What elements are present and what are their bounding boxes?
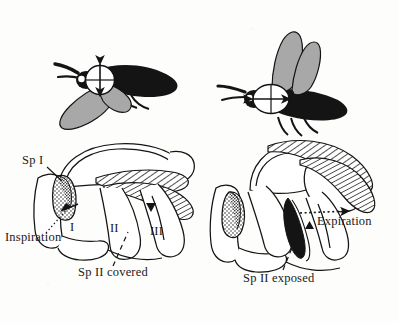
label-inspiration: Inspiration xyxy=(5,231,61,244)
figure-canvas: Sp I Inspiration Sp II covered I II III … xyxy=(0,0,399,323)
moth-wings-down-group xyxy=(55,64,178,129)
thorax-expiration-group xyxy=(210,141,375,273)
moth-wings-up-group xyxy=(218,32,347,136)
label-sp-one: Sp I xyxy=(22,154,43,167)
expiration-arrow xyxy=(300,211,349,213)
expiration-triangle-marker xyxy=(305,221,314,229)
label-segment-one: I xyxy=(70,221,74,234)
moth-respiration-figure xyxy=(0,0,399,323)
label-expiration: Expiration xyxy=(317,215,372,228)
label-sp-two-exposed: Sp II exposed xyxy=(243,272,314,285)
thorax-inspiration-group xyxy=(34,144,194,266)
label-segment-three: III xyxy=(150,225,163,238)
label-sp-two-covered: Sp II covered xyxy=(78,266,148,279)
label-segment-two: II xyxy=(110,222,119,235)
